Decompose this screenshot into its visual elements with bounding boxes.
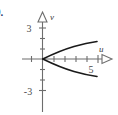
parabola-upper-branch — [43, 42, 97, 60]
parabola-plot: v u 3 -3 5 — [0, 0, 118, 115]
v-axis-tick-label-minus-3: -3 — [24, 86, 32, 97]
u-axis-tick-label-5: 5 — [89, 64, 94, 75]
figure-container: 9. v u 3 -3 5 — [0, 0, 118, 115]
v-axis-arrow-icon — [38, 12, 47, 22]
u-axis-arrow-icon — [102, 55, 112, 64]
v-axis-tick-label-3: 3 — [27, 23, 32, 34]
u-axis-label: u — [99, 44, 104, 54]
v-axis-label: v — [50, 12, 54, 22]
